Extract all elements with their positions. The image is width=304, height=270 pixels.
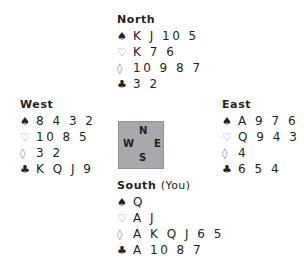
north-label: North	[117, 12, 203, 28]
south-spades-cards: Q	[133, 195, 145, 209]
diamond-icon: ◊	[222, 146, 238, 162]
east-label: East	[222, 97, 304, 113]
spade-icon: ♠	[20, 114, 36, 130]
east-hearts-cards: Q 9 4 3 2	[238, 130, 304, 144]
east-name: East	[222, 98, 251, 111]
diamond-icon: ◊	[117, 227, 133, 243]
west-label: West	[20, 97, 95, 113]
south-hearts-cards: A J	[133, 211, 156, 225]
north-clubs: ♣3 2	[117, 76, 203, 92]
north-diamonds: ◊10 9 8 7	[117, 60, 203, 76]
north-hearts-cards: K 7 6	[133, 45, 176, 59]
east-hand: East ♠A 9 7 6 ♡Q 9 4 3 2 ◊4 ♣6 5 4	[222, 97, 304, 177]
west-hearts: ♡10 8 5	[20, 129, 95, 145]
east-spades: ♠A 9 7 6	[222, 113, 304, 129]
south-hearts: ♡A J	[117, 210, 224, 226]
north-name: North	[117, 13, 155, 26]
north-clubs-cards: 3 2	[133, 77, 160, 91]
north-diamonds-cards: 10 9 8 7	[133, 61, 203, 75]
heart-icon: ♡	[117, 45, 133, 61]
heart-icon: ♡	[222, 130, 238, 146]
east-diamonds-cards: 4	[238, 146, 248, 160]
club-icon: ♣	[117, 243, 133, 259]
compass-east: E	[154, 138, 161, 149]
south-you-tag: (You)	[161, 179, 191, 192]
club-icon: ♣	[222, 162, 238, 178]
diamond-icon: ◊	[20, 146, 36, 162]
south-diamonds: ◊A K Q J 6 5	[117, 226, 224, 242]
west-hearts-cards: 10 8 5	[36, 130, 89, 144]
north-hand: North ♠K J 10 5 ♡K 7 6 ◊10 9 8 7 ♣3 2	[117, 12, 203, 92]
spade-icon: ♠	[222, 114, 238, 130]
south-clubs-cards: A 10 8 7	[133, 243, 203, 257]
north-spades: ♠K J 10 5	[117, 28, 203, 44]
club-icon: ♣	[117, 77, 133, 93]
heart-icon: ♡	[20, 130, 36, 146]
east-hearts: ♡Q 9 4 3 2	[222, 129, 304, 145]
west-name: West	[20, 98, 53, 111]
west-diamonds-cards: 3 2	[36, 146, 63, 160]
south-spades: ♠Q	[117, 194, 224, 210]
west-clubs-cards: K Q J 9	[36, 162, 93, 176]
north-hearts: ♡K 7 6	[117, 44, 203, 60]
south-diamonds-cards: A K Q J 6 5	[133, 227, 224, 241]
south-hand: South (You) ♠Q ♡A J ◊A K Q J 6 5 ♣A 10 8…	[117, 178, 224, 258]
spade-icon: ♠	[117, 29, 133, 45]
east-spades-cards: A 9 7 6	[238, 114, 298, 128]
west-spades-cards: 8 4 3 2	[36, 114, 95, 128]
east-diamonds: ◊4	[222, 145, 304, 161]
compass-south: S	[139, 152, 146, 163]
south-clubs: ♣A 10 8 7	[117, 242, 224, 258]
south-label: South (You)	[117, 178, 224, 194]
diamond-icon: ◊	[117, 61, 133, 77]
heart-icon: ♡	[117, 211, 133, 227]
compass-west: W	[123, 138, 134, 149]
west-clubs: ♣K Q J 9	[20, 161, 95, 177]
club-icon: ♣	[20, 162, 36, 178]
south-name: South	[117, 179, 156, 192]
west-diamonds: ◊3 2	[20, 145, 95, 161]
north-spades-cards: K J 10 5	[133, 29, 199, 43]
east-clubs: ♣6 5 4	[222, 161, 304, 177]
east-clubs-cards: 6 5 4	[238, 162, 281, 176]
compass-box: N W E S	[118, 121, 164, 169]
west-spades: ♠8 4 3 2	[20, 113, 95, 129]
compass-north: N	[139, 125, 147, 136]
west-hand: West ♠8 4 3 2 ♡10 8 5 ◊3 2 ♣K Q J 9	[20, 97, 95, 177]
spade-icon: ♠	[117, 195, 133, 211]
